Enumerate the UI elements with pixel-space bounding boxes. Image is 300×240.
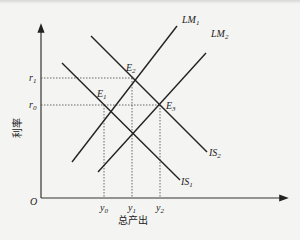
r0-tick-label: r0 [29, 99, 37, 112]
is-lm-diagram: LM1 LM2 IS1 IS2 E1 E2 E3 r1 r0 y0 y1 y2 … [0, 0, 300, 240]
origin-label: O [30, 196, 37, 207]
y-axis-title: 利率 [11, 118, 23, 138]
y2-tick-label: y2 [155, 202, 164, 215]
is2-label: IS2 [208, 147, 221, 160]
r1-tick-label: r1 [29, 72, 36, 85]
y0-tick-label: y0 [99, 202, 108, 215]
x-axis-title: 总产出 [118, 214, 148, 226]
is1-curve [62, 63, 180, 180]
diagram-canvas: LM1 LM2 IS1 IS2 E1 E2 E3 r1 r0 y0 y1 y2 … [0, 0, 300, 240]
lm1-label: LM1 [181, 14, 199, 27]
y1-tick-label: y1 [127, 202, 136, 215]
lm1-curve [72, 26, 177, 162]
is1-label: IS1 [180, 176, 193, 189]
e2-label: E2 [125, 62, 136, 75]
lm2-curve [98, 53, 206, 172]
lm2-label: LM2 [210, 28, 229, 41]
is2-curve [91, 36, 207, 152]
